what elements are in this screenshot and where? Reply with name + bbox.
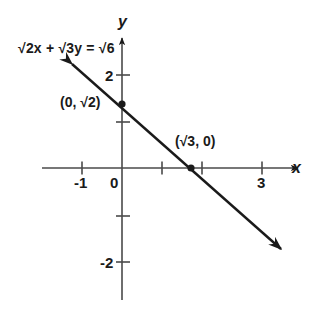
x-tick-label-3: 3 (257, 175, 265, 190)
y-axis (116, 38, 130, 300)
y-axis-label: y (118, 14, 127, 30)
x-axis (42, 162, 298, 175)
y-tick-label-neg2: -2 (100, 255, 113, 270)
equation-text: √2x + √3y = √6 (18, 40, 115, 56)
x-tick-label-neg1: -1 (74, 175, 87, 190)
equation-label: √2x + √3y = √6 (18, 41, 115, 55)
point-label-y-intercept: (0, √2) (60, 95, 100, 109)
x-axis-label: x (292, 160, 301, 176)
y-tick-label-2: 2 (105, 68, 113, 83)
line-sqrt2x-plus-sqrt3y-equals-sqrt6 (72, 64, 281, 249)
point-marker-y-intercept (118, 100, 125, 107)
plotted-line-group (72, 64, 281, 249)
point-marker-x-intercept (187, 164, 194, 171)
x-tick-label-origin: 0 (110, 175, 118, 190)
line-graph-figure: √2x + √3y = √6 y x 2 -2 -1 0 3 (0, √2) (… (0, 0, 317, 311)
point-label-x-intercept: (√3, 0) (175, 134, 215, 148)
